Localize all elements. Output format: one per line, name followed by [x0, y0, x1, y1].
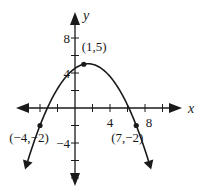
- curve-arrow-icon: [23, 159, 33, 169]
- point-marker: [81, 62, 86, 67]
- y-tick-label: 4: [64, 66, 71, 81]
- point-marker: [134, 123, 139, 128]
- parabola-path: [28, 64, 149, 161]
- y-tick-label: −4: [56, 136, 70, 151]
- y-axis-down-arrow-icon: [70, 173, 80, 186]
- point-label: (7,−2): [111, 130, 143, 145]
- axes: [16, 12, 182, 186]
- point-label: (−4,−2): [9, 130, 49, 145]
- x-axis-label: x: [187, 101, 195, 116]
- curve-arrow-icon: [144, 159, 154, 169]
- x-axis-left-arrow-icon: [16, 103, 29, 113]
- x-tick-label: 4: [107, 115, 114, 130]
- y-tick-label: 8: [64, 31, 71, 46]
- x-axis-right-arrow-icon: [169, 103, 182, 113]
- x-tick-label: 8: [146, 115, 153, 130]
- y-axis-label: y: [81, 8, 90, 23]
- point-label: (1,5): [82, 39, 107, 54]
- y-axis-up-arrow-icon: [70, 12, 80, 25]
- point-marker: [37, 123, 42, 128]
- parabola-chart: (1,5)(−4,−2)(7,−2) 4884−4xy: [0, 0, 205, 194]
- parabola-curve: [23, 64, 153, 170]
